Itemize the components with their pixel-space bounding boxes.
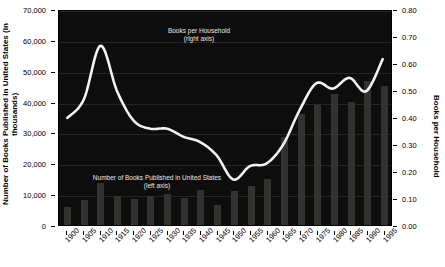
- x-axis-tick-label: 1900: [63, 226, 81, 244]
- y-axis-right-tick-label: 0.30: [402, 141, 417, 150]
- x-axis-tick-label: 1995: [381, 226, 399, 244]
- y-axis-right-tick-label: 0.10: [402, 195, 417, 204]
- chart-container: Number of Books Published in United Stat…: [0, 0, 445, 267]
- x-axis-tick-label: 1920: [130, 226, 148, 244]
- y-axis-left-tick-label: 60,000: [23, 36, 46, 45]
- books-published-annotation: Number of Books Published in United Stat…: [57, 174, 257, 190]
- y-axis-right-tick-label: 0.80: [402, 6, 417, 15]
- x-axis-tick-label: 1945: [214, 226, 232, 244]
- books-per-household-annotation: Books per Household (right axis): [119, 27, 279, 43]
- x-axis-tick-label: 1960: [264, 226, 282, 244]
- y-axis-right-tick-label: 0.50: [402, 87, 417, 96]
- x-axis: 1900190519101915192019251930193519401945…: [0, 231, 445, 267]
- y-axis-right-tick: [393, 10, 397, 11]
- y-axis-left-tick: [51, 226, 55, 227]
- y-axis-left-tick-label: 0: [42, 222, 46, 231]
- y-axis-left-tick-label: 30,000: [23, 129, 46, 138]
- y-axis-left-tick-label: 20,000: [23, 160, 46, 169]
- y-axis-left-tick-label: 50,000: [23, 67, 46, 76]
- x-axis-tick-label: 1985: [347, 226, 365, 244]
- y-axis-right-tick: [393, 91, 397, 92]
- annotation-line-2: (right axis): [119, 35, 279, 43]
- x-axis-tick-label: 1910: [97, 226, 115, 244]
- x-axis-tick-label: 1940: [197, 226, 215, 244]
- x-axis-tick-label: 1930: [164, 226, 182, 244]
- y-axis-left-tick-label: 40,000: [23, 98, 46, 107]
- y-axis-right-tick: [393, 172, 397, 173]
- y-axis-right-tick-label: 0.70: [402, 33, 417, 42]
- y-axis-right-tick: [393, 64, 397, 65]
- x-axis-tick-label: 1915: [113, 226, 131, 244]
- y-axis-right-tick: [393, 37, 397, 38]
- x-axis-tick-label: 1990: [364, 226, 382, 244]
- x-axis-tick-label: 1955: [247, 226, 265, 244]
- y-axis-right-tick: [393, 118, 397, 119]
- y-axis-right-title: Books per Household: [427, 66, 441, 206]
- x-axis-tick-label: 1935: [180, 226, 198, 244]
- x-axis-tick-label: 1980: [331, 226, 349, 244]
- y-axis-right-tick-label: 0.00: [402, 222, 417, 231]
- y-axis-right-tick-label: 0.60: [402, 60, 417, 69]
- y-axis-right-tick: [393, 199, 397, 200]
- x-axis-tick-label: 1950: [230, 226, 248, 244]
- y-axis-left-tick: [51, 103, 55, 104]
- y-axis-right-tick-label: 0.20: [402, 168, 417, 177]
- y-axis-left-tick: [51, 133, 55, 134]
- annotation-line-1: Books per Household: [119, 27, 279, 35]
- annotation-line-1: Number of Books Published in United Stat…: [57, 174, 257, 182]
- y-axis-left-tick: [51, 72, 55, 73]
- line-series: [59, 11, 391, 225]
- y-axis-right-tick: [393, 145, 397, 146]
- plot-area: Books per Household (right axis) Number …: [58, 10, 392, 226]
- y-axis-left-tick: [51, 195, 55, 196]
- y-axis-left-tick: [51, 41, 55, 42]
- y-axis-left: 010,00020,00030,00040,00050,00060,00070,…: [0, 0, 55, 267]
- y-axis-left-tick-label: 70,000: [23, 6, 46, 15]
- x-axis-tick-label: 1905: [80, 226, 98, 244]
- x-axis-tick-label: 1970: [297, 226, 315, 244]
- y-axis-left-tick: [51, 164, 55, 165]
- x-axis-tick-label: 1965: [280, 226, 298, 244]
- x-axis-tick-label: 1975: [314, 226, 332, 244]
- x-axis-tick-label: 1925: [147, 226, 165, 244]
- annotation-line-2: (left axis): [57, 182, 257, 190]
- y-axis-left-tick-label: 10,000: [23, 191, 46, 200]
- y-axis-left-tick: [51, 10, 55, 11]
- books-per-household-line: [67, 46, 382, 180]
- y-axis-right-tick-label: 0.40: [402, 114, 417, 123]
